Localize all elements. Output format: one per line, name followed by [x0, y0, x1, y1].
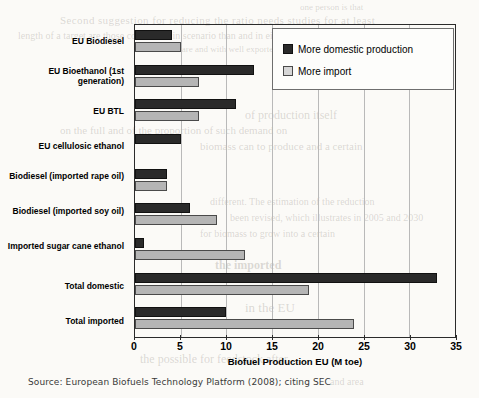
x-tick-label: 35 [450, 340, 462, 352]
bar-domestic [135, 169, 167, 179]
x-tick-label: 20 [312, 340, 324, 352]
bar-import [135, 250, 245, 260]
legend-swatch-icon [283, 44, 293, 54]
x-axis-title: Biofuel Production EU (M toe) [134, 356, 456, 367]
y-axis-label: Imported sugar cane ethanol [0, 241, 124, 251]
x-tick-label: 0 [131, 340, 137, 352]
y-axis-label: Total domestic [0, 281, 124, 291]
x-tick-label: 25 [358, 340, 370, 352]
x-tick-label: 15 [266, 340, 278, 352]
y-axis-label: Biodiesel (imported rape oil) [0, 171, 124, 181]
x-tick-label: 5 [177, 340, 183, 352]
bar-row [135, 268, 455, 303]
bar-import [135, 319, 354, 329]
bar-domestic [135, 134, 181, 144]
y-axis-label: EU Biodiesel [0, 36, 124, 46]
bar-domestic [135, 203, 190, 213]
bar-import [135, 181, 167, 191]
bar-domestic [135, 65, 254, 75]
x-tick-label: 10 [220, 340, 232, 352]
y-axis-label: Total imported [0, 316, 124, 326]
legend-item: More domestic production [283, 38, 453, 60]
bar-import [135, 77, 199, 87]
bar-row [135, 198, 455, 233]
legend-label: More import [298, 66, 351, 77]
bar-domestic [135, 273, 437, 283]
y-axis-label: EU cellulosic ethanol [0, 141, 124, 151]
x-axis-ticks: 05101520253035 [134, 340, 456, 354]
bar-row [135, 302, 455, 337]
chart-legend: More domestic productionMore import [272, 28, 454, 90]
y-axis-label: Biodiesel (imported soy oil) [0, 206, 124, 216]
y-axis-labels: EU BiodieselEU Bioethanol (1st generatio… [0, 24, 130, 338]
bar-import [135, 111, 199, 121]
bar-domestic [135, 307, 226, 317]
y-axis-label: EU Bioethanol (1st generation) [0, 66, 124, 86]
bar-row [135, 233, 455, 268]
bar-import [135, 42, 181, 52]
bar-chart: EU BiodieselEU Bioethanol (1st generatio… [0, 0, 479, 398]
source-note: Source: European Biofuels Technology Pla… [28, 377, 331, 387]
bar-domestic [135, 30, 172, 40]
bar-row [135, 129, 455, 164]
x-tick-label: 30 [404, 340, 416, 352]
bar-row [135, 164, 455, 199]
legend-item: More import [283, 60, 453, 82]
legend-label: More domestic production [298, 44, 413, 55]
legend-swatch-icon [283, 66, 293, 76]
y-axis-label: EU BTL [0, 106, 124, 116]
bar-import [135, 215, 217, 225]
bar-import [135, 285, 309, 295]
bar-domestic [135, 238, 144, 248]
bar-domestic [135, 99, 236, 109]
bar-row [135, 94, 455, 129]
